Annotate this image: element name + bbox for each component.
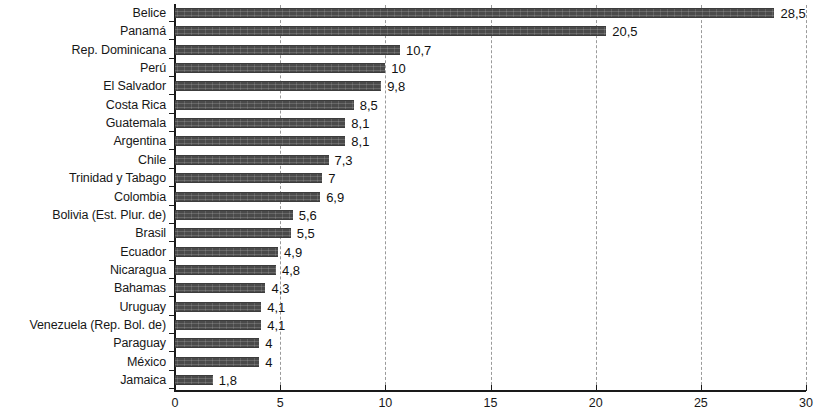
x-tick-30: [806, 385, 807, 391]
y-tick-6: [169, 131, 175, 132]
y-tick-2: [169, 58, 175, 59]
bar: [175, 192, 320, 202]
category-label-8: Chile: [138, 154, 166, 167]
y-tick-0: [169, 21, 175, 22]
x-tick-label-0: 0: [155, 396, 195, 410]
bar: [175, 375, 213, 385]
horizontal-bar-chart: BelicePanamáRep. DominicanaPerúEl Salvad…: [0, 0, 819, 419]
bar: [175, 136, 345, 146]
category-label-20: Jamaica: [120, 374, 166, 387]
bar: [175, 26, 606, 36]
bar-value-label: 7: [328, 172, 335, 185]
y-tick-1: [169, 39, 175, 40]
bar: [175, 118, 345, 128]
bar-value-label: 4,3: [271, 282, 289, 295]
category-axis-labels: BelicePanamáRep. DominicanaPerúEl Salvad…: [0, 0, 171, 419]
bar-value-label: 7,3: [335, 154, 353, 167]
bar: [175, 63, 385, 73]
bar: [175, 247, 278, 257]
x-tick-10: [385, 385, 386, 391]
y-tick-10: [169, 205, 175, 206]
category-label-6: Guatemala: [106, 117, 166, 130]
category-label-13: Ecuador: [120, 246, 166, 259]
bar-value-label: 20,5: [612, 25, 637, 38]
category-label-3: Perú: [140, 62, 166, 75]
bar: [175, 45, 400, 55]
bar-value-label: 4,8: [282, 264, 300, 277]
x-tick-label-15: 15: [471, 396, 511, 410]
y-tick-14: [169, 278, 175, 279]
bar: [175, 302, 261, 312]
category-label-1: Panamá: [120, 25, 166, 38]
y-tick-17: [169, 333, 175, 334]
y-tick-15: [169, 296, 175, 297]
bar: [175, 338, 259, 348]
bar-value-label: 8,5: [360, 99, 378, 112]
category-label-2: Rep. Dominicana: [72, 44, 166, 57]
x-tick-5: [280, 385, 281, 391]
category-label-11: Bolivia (Est. Plur. de): [52, 209, 166, 222]
x-tick-0: [175, 385, 176, 391]
x-tick-label-25: 25: [681, 396, 721, 410]
bar-value-label: 4: [265, 356, 272, 369]
category-label-17: Venezuela (Rep. Bol. de): [29, 319, 166, 332]
category-label-5: Costa Rica: [106, 99, 166, 112]
y-tick-11: [169, 223, 175, 224]
bar-value-label: 4,1: [267, 301, 285, 314]
category-label-12: Brasil: [135, 227, 166, 240]
bar: [175, 357, 259, 367]
category-label-4: El Salvador: [103, 80, 166, 93]
x-tick-label-10: 10: [365, 396, 405, 410]
category-label-9: Trinidad y Tabago: [69, 172, 166, 185]
bar-value-label: 4,1: [267, 319, 285, 332]
x-tick-label-20: 20: [576, 396, 616, 410]
bar-value-label: 5,6: [299, 209, 317, 222]
bar-value-label: 4,9: [284, 246, 302, 259]
y-tick-8: [169, 168, 175, 169]
bar: [175, 8, 774, 18]
x-tick-label-5: 5: [260, 396, 300, 410]
bar: [175, 283, 265, 293]
category-label-16: Uruguay: [119, 301, 166, 314]
gridline-20: [596, 5, 597, 390]
gridline-30: [806, 5, 807, 390]
y-tick-9: [169, 186, 175, 187]
bar-value-label: 10: [391, 62, 405, 75]
category-label-18: Paraguay: [113, 337, 166, 350]
y-tick-4: [169, 94, 175, 95]
bar-value-label: 4: [265, 337, 272, 350]
y-tick-13: [169, 260, 175, 261]
bar: [175, 100, 354, 110]
gridline-10: [385, 5, 386, 390]
category-label-7: Argentina: [113, 135, 166, 148]
category-label-10: Colombia: [114, 191, 166, 204]
bar: [175, 265, 276, 275]
bar: [175, 155, 329, 165]
gridline-15: [491, 5, 492, 390]
bar-value-label: 9,8: [387, 80, 405, 93]
category-label-14: Nicaragua: [110, 264, 166, 277]
y-tick-5: [169, 113, 175, 114]
bar-value-label: 1,8: [219, 374, 237, 387]
category-label-15: Bahamas: [114, 282, 166, 295]
bar-value-label: 8,1: [351, 117, 369, 130]
category-label-0: Belice: [133, 7, 166, 20]
bar-value-label: 28,5: [780, 7, 805, 20]
bar: [175, 210, 293, 220]
bar-value-label: 10,7: [406, 44, 431, 57]
category-label-19: México: [127, 356, 166, 369]
y-tick-20: [169, 388, 175, 389]
gridline-25: [701, 5, 702, 390]
y-tick-16: [169, 315, 175, 316]
bar-value-label: 5,5: [297, 227, 315, 240]
x-tick-25: [701, 385, 702, 391]
x-tick-label-30: 30: [786, 396, 819, 410]
bar: [175, 173, 322, 183]
y-tick-12: [169, 241, 175, 242]
x-tick-15: [491, 385, 492, 391]
y-tick-3: [169, 76, 175, 77]
x-tick-20: [596, 385, 597, 391]
bar: [175, 320, 261, 330]
bar-value-label: 8,1: [351, 135, 369, 148]
plot-area: 28,520,510,7109,88,58,18,17,376,95,65,54…: [175, 0, 819, 419]
